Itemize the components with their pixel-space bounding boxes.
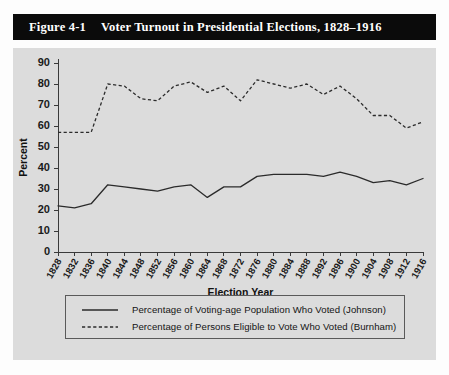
svg-text:70: 70 xyxy=(38,98,50,110)
svg-text:1900: 1900 xyxy=(342,257,362,281)
svg-text:1880: 1880 xyxy=(259,257,279,281)
svg-text:1852: 1852 xyxy=(143,257,163,281)
svg-text:1888: 1888 xyxy=(292,257,312,281)
svg-text:1868: 1868 xyxy=(210,257,230,281)
svg-text:30: 30 xyxy=(38,182,50,194)
figure-title-bar: Figure 4-1 Voter Turnout in Presidential… xyxy=(13,14,436,40)
svg-text:1908: 1908 xyxy=(375,257,395,281)
figure-number: Figure 4-1 xyxy=(29,20,86,35)
svg-text:1876: 1876 xyxy=(243,257,263,281)
svg-text:1896: 1896 xyxy=(326,257,346,281)
svg-text:1832: 1832 xyxy=(60,257,80,281)
svg-text:1916: 1916 xyxy=(409,257,429,281)
svg-text:50: 50 xyxy=(38,140,50,152)
svg-text:60: 60 xyxy=(38,119,50,131)
svg-text:1912: 1912 xyxy=(392,257,412,281)
svg-text:40: 40 xyxy=(38,161,50,173)
svg-text:1884: 1884 xyxy=(276,256,296,280)
legend-label-johnson: Percentage of Voting-age Population Who … xyxy=(132,304,386,315)
svg-text:80: 80 xyxy=(38,77,50,89)
svg-text:0: 0 xyxy=(44,245,50,257)
svg-text:1836: 1836 xyxy=(77,257,97,281)
chart-panel: 0102030405060708090Percent18281832183618… xyxy=(13,48,436,360)
svg-text:1892: 1892 xyxy=(309,257,329,281)
svg-text:1840: 1840 xyxy=(93,257,113,281)
chart-legend: Percentage of Voting-age Population Who … xyxy=(65,295,405,339)
svg-text:90: 90 xyxy=(38,56,50,68)
legend-swatch-solid-icon xyxy=(80,305,120,315)
legend-label-burnham: Percentage of Persons Eligible to Vote W… xyxy=(132,321,396,332)
svg-text:20: 20 xyxy=(38,203,50,215)
legend-item-johnson: Percentage of Voting-age Population Who … xyxy=(66,301,404,318)
svg-text:1860: 1860 xyxy=(176,257,196,281)
series-line-burnham xyxy=(58,80,423,133)
figure-root: Figure 4-1 Voter Turnout in Presidential… xyxy=(0,0,449,375)
series-line-johnson xyxy=(58,172,423,208)
legend-item-burnham: Percentage of Persons Eligible to Vote W… xyxy=(66,318,404,335)
svg-text:1856: 1856 xyxy=(160,257,180,281)
svg-text:1904: 1904 xyxy=(359,256,379,280)
figure-title: Voter Turnout in Presidential Elections,… xyxy=(101,20,382,35)
svg-text:1828: 1828 xyxy=(44,257,64,281)
y-axis-title: Percent xyxy=(17,138,29,177)
legend-swatch-dashed-icon xyxy=(80,322,120,332)
svg-text:1864: 1864 xyxy=(193,256,213,280)
svg-text:10: 10 xyxy=(38,224,50,236)
svg-text:1872: 1872 xyxy=(226,257,246,281)
svg-text:1848: 1848 xyxy=(127,257,147,281)
svg-text:1844: 1844 xyxy=(110,256,130,280)
